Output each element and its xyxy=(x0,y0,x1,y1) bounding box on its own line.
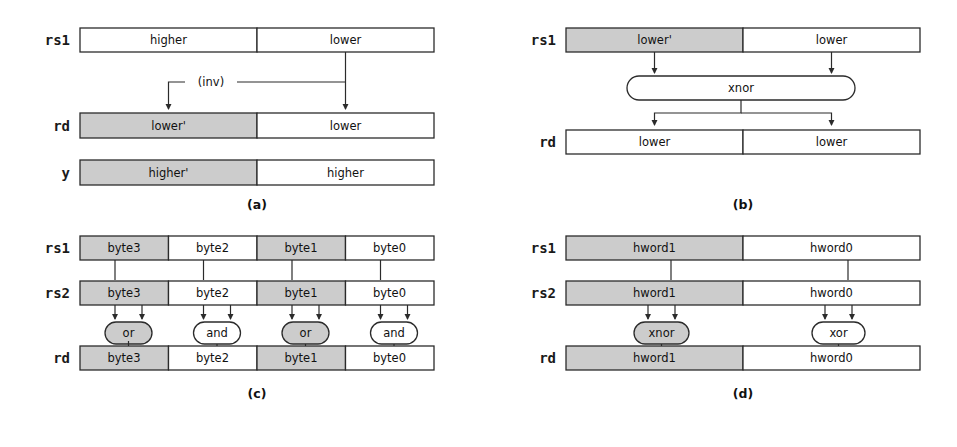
register-label-rd: rd xyxy=(539,134,556,150)
gate-or-1: or xyxy=(105,322,152,344)
panel-a-register-rd: rd lower' lower xyxy=(53,113,434,138)
register-label-rd: rd xyxy=(53,118,70,134)
register-label-rs1: rs1 xyxy=(45,32,70,48)
register-label-rs2: rs2 xyxy=(45,285,70,301)
panel-c-wires-rs1-rs2 xyxy=(115,260,381,280)
register-label-rs1: rs1 xyxy=(45,240,70,256)
register-label-rs1: rs1 xyxy=(531,32,556,48)
gate-label: xor xyxy=(829,326,847,340)
gate-label: xnor xyxy=(649,326,675,340)
register-cell-label: hword1 xyxy=(633,351,676,365)
gate-xnor: xnor xyxy=(627,76,855,100)
gate-label: and xyxy=(206,326,228,340)
register-operations-diagram: rs1 higher lower (inv) rd lower' lower y xyxy=(0,0,957,447)
gate-xnor-d: xnor xyxy=(634,322,689,344)
register-cell-label: lower xyxy=(330,33,362,47)
register-cell-label: byte1 xyxy=(284,286,317,300)
register-label-rd: rd xyxy=(53,350,70,366)
register-cell-label: higher xyxy=(327,166,364,180)
wire-gate-to-rd-right xyxy=(741,113,832,125)
register-cell-label: lower' xyxy=(637,33,672,47)
panel-b: rs1 lower' lower xnor rd lower lower xyxy=(531,28,920,212)
panel-d-register-rs2: rs2 hword1 hword0 xyxy=(531,281,920,305)
register-label-rs2: rs2 xyxy=(531,285,556,301)
panel-c-wires-gate-in xyxy=(115,305,408,319)
panel-caption-a: (a) xyxy=(247,197,267,212)
register-cell-label: byte0 xyxy=(373,286,406,300)
gate-label: or xyxy=(123,326,135,340)
panel-b-register-rd: rd lower lower xyxy=(539,130,920,154)
register-cell-label: hword0 xyxy=(810,241,853,255)
panel-caption-b: (b) xyxy=(733,197,753,212)
panel-a-wires: (inv) xyxy=(169,52,346,109)
register-cell-label: byte2 xyxy=(196,351,229,365)
panel-d-wires-gate-in xyxy=(648,305,852,319)
gate-xor-d: xor xyxy=(812,322,865,344)
panel-b-wires-in xyxy=(655,52,832,73)
register-cell-label: byte0 xyxy=(373,241,406,255)
panel-a: rs1 higher lower (inv) rd lower' lower y xyxy=(45,28,434,212)
panel-d-wires-rs1-rs2 xyxy=(671,260,848,280)
panel-b-register-rs1: rs1 lower' lower xyxy=(531,28,920,52)
register-label-rs1: rs1 xyxy=(531,240,556,256)
gate-label: and xyxy=(383,326,405,340)
register-cell-label: hword0 xyxy=(810,286,853,300)
register-cell-label: hword1 xyxy=(633,286,676,300)
register-cell-label: byte3 xyxy=(107,241,140,255)
register-cell-label: higher' xyxy=(148,166,188,180)
register-cell-label: lower xyxy=(639,135,671,149)
panel-c-register-rs2: rs2 byte3 byte2 byte1 byte0 xyxy=(45,281,434,305)
gate-and-2: and xyxy=(371,322,418,344)
register-cell-label: byte2 xyxy=(196,286,229,300)
gate-or-2: or xyxy=(282,322,329,344)
panel-b-wires-out xyxy=(655,100,832,125)
panel-c-register-rs1: rs1 byte3 byte2 byte1 byte0 xyxy=(45,236,434,260)
gate-label: xnor xyxy=(728,81,754,95)
wire-gate-to-rd-left xyxy=(655,100,742,125)
register-cell-label: hword0 xyxy=(810,351,853,365)
panel-caption-c: (c) xyxy=(248,386,267,401)
register-cell-label: byte3 xyxy=(107,351,140,365)
register-cell-label: higher xyxy=(150,33,187,47)
register-cell-label: byte1 xyxy=(284,241,317,255)
register-cell-label: byte2 xyxy=(196,241,229,255)
panel-a-register-rs1: rs1 higher lower xyxy=(45,28,434,52)
register-cell-label: lower xyxy=(330,119,362,133)
register-cell-label: lower xyxy=(816,33,848,47)
figure-root: rs1 higher lower (inv) rd lower' lower y xyxy=(0,0,957,447)
panel-c: rs1 byte3 byte2 byte1 byte0 rs2 byte3 by… xyxy=(45,236,434,401)
register-cell-label: lower' xyxy=(151,119,186,133)
panel-caption-d: (d) xyxy=(733,386,753,401)
panel-a-register-y: y higher' higher xyxy=(62,160,434,185)
register-cell-label: lower xyxy=(816,135,848,149)
panel-c-register-rd: rd byte3 byte2 byte1 byte0 xyxy=(53,346,434,370)
register-cell-label: byte0 xyxy=(373,351,406,365)
register-label-y: y xyxy=(62,165,71,181)
register-label-rd: rd xyxy=(539,350,556,366)
gate-label: or xyxy=(300,326,312,340)
annotation-inv: (inv) xyxy=(198,75,224,89)
register-cell-label: byte1 xyxy=(284,351,317,365)
gate-and-1: and xyxy=(194,322,241,344)
register-cell-label: byte3 xyxy=(107,286,140,300)
panel-d: rs1 hword1 hword0 rs2 hword1 hword0 xn xyxy=(531,236,920,401)
panel-d-register-rs1: rs1 hword1 hword0 xyxy=(531,236,920,260)
register-cell-label: hword1 xyxy=(633,241,676,255)
panel-d-register-rd: rd hword1 hword0 xyxy=(539,346,920,370)
